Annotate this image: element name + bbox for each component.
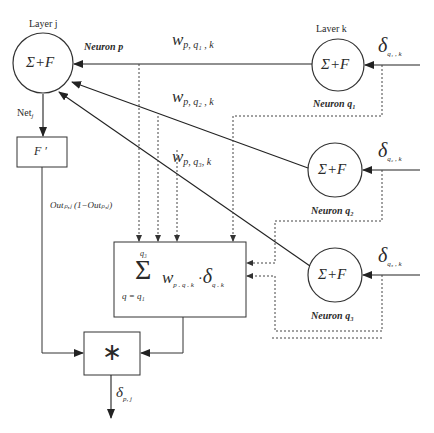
neuron-q1-label: Neuron q₁ (313, 99, 356, 109)
neuron-q3-glyph: Σ+F (318, 267, 346, 282)
neuron-q1-glyph: Σ+F (321, 57, 349, 72)
sum-lower-limit: q = q₁ (122, 292, 145, 301)
neuron-p-label: Neuron p (84, 42, 123, 52)
sum-sigma: Σ (135, 256, 151, 284)
derivative-expression: Outₚ,ⱼ (1−Outₚ,ⱼ) (50, 201, 112, 210)
neuron-q3-label: Neuron q₃ (311, 311, 354, 321)
neuron-q2-label: Neuron q₂ (311, 206, 354, 216)
weight-w1-label: wp, q₁ , k (172, 31, 214, 50)
delta-q1-tap (233, 65, 382, 241)
multiply-symbol: ∗ (102, 340, 122, 364)
diagram-canvas (0, 0, 434, 433)
output-delta-label: δp, j (116, 384, 132, 403)
sum-term: wp . q . k ·δq . k (162, 266, 224, 289)
delta-q3-label: δq₃ , k (378, 245, 402, 268)
net-label: Netj (17, 108, 33, 120)
connection-q3-p (59, 92, 310, 266)
delta-q1-label: δq₁ , k (378, 35, 402, 58)
delta-q2-label: δq₂ , k (378, 140, 402, 163)
neuron-p-glyph: Σ+F (26, 55, 54, 70)
layer-j-label: Layer j (29, 19, 58, 29)
delta-q2-tap (247, 170, 382, 263)
derivative-to-multiply (42, 167, 83, 353)
weight-w3-label: wp, q₃, k (172, 148, 211, 167)
delta-q3-tap (247, 275, 382, 331)
layer-k-label: Laver k (316, 24, 347, 34)
neuron-q2-glyph: Σ+F (318, 162, 346, 177)
derivative-box-label: F ′ (34, 145, 47, 157)
weight-w2-label: wp, q₂ , k (172, 88, 214, 107)
sum-to-multiply (141, 317, 183, 353)
